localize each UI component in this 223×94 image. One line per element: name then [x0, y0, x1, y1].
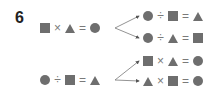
branch-arrows: [0, 0, 223, 94]
